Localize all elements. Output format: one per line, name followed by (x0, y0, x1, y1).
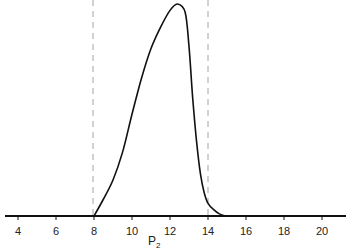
x-tick-label: 4 (15, 225, 21, 237)
x-tick-label: 14 (202, 225, 214, 237)
x-tick-label: 10 (126, 225, 138, 237)
x-tick-label: 6 (53, 225, 59, 237)
x-tick-label: 16 (240, 225, 252, 237)
x-tick-label: 18 (278, 225, 290, 237)
density-curve (94, 4, 225, 216)
x-tick-label: 8 (91, 225, 97, 237)
x-tick-label: 12 (164, 225, 176, 237)
x-axis-title: P2 (148, 234, 161, 250)
density-chart: 468101214161820 P2 (0, 0, 356, 251)
x-tick-label: 20 (316, 225, 328, 237)
x-axis-tick-labels: 468101214161820 (15, 225, 328, 237)
